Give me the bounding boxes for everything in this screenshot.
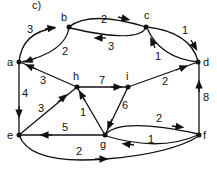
arrow-icon: [126, 144, 134, 145]
node-label-f: f: [203, 129, 207, 141]
edge-weight: 6: [122, 99, 128, 111]
node-d: [196, 60, 201, 65]
arrow-icon: [176, 67, 184, 70]
node-label-h: h: [73, 70, 79, 82]
edge-weight: 3: [38, 102, 44, 114]
node-f: [197, 133, 202, 138]
arrow-icon: [81, 94, 85, 101]
node-i: [126, 85, 131, 90]
edge-weight: 2: [76, 145, 82, 157]
node-label-c: c: [144, 9, 150, 21]
edge-weight: 2: [156, 112, 162, 124]
node-e: [17, 133, 22, 138]
edge-weight: 2: [101, 13, 107, 25]
edge-weight: 4: [22, 87, 28, 99]
node-h: [75, 85, 80, 90]
edge-weight: 1: [155, 50, 161, 62]
edge-e-f: [19, 135, 199, 160]
edge-weight: 3: [27, 23, 33, 35]
edge-weight: 1: [80, 106, 86, 118]
node-b: [67, 25, 72, 30]
figure-caption: c): [32, 0, 41, 11]
edge-c-b: [70, 27, 146, 36]
edge-weight: 3: [40, 74, 46, 86]
arrow-icon: [118, 17, 126, 19]
node-label-b: b: [61, 11, 67, 23]
node-label-d: d: [203, 56, 209, 68]
node-label-i: i: [126, 70, 128, 82]
node-g: [103, 133, 108, 138]
edge-b-c: [69, 19, 146, 28]
arrow-icon: [152, 41, 155, 48]
edge-weight: 8: [203, 91, 209, 103]
node-c: [144, 25, 149, 30]
node-label-a: a: [7, 56, 14, 68]
edge-weight: 3: [108, 40, 114, 52]
arrow-icon: [58, 97, 64, 102]
edge-a-b: [19, 28, 55, 62]
edge-weight: 1: [182, 24, 188, 36]
arrow-icon: [29, 66, 36, 69]
edge-weight: 7: [99, 74, 105, 86]
arrow-icon: [172, 126, 180, 127]
edge-h-a: [20, 62, 77, 87]
arrow-icon: [191, 40, 195, 47]
edge-weight: 5: [62, 121, 68, 133]
graph-diagram: c) 3 2 2 3 1 1 4 3 7 2 3 1 6 5: [0, 0, 217, 170]
edge-weight: 2: [162, 75, 168, 87]
node-a: [17, 60, 22, 65]
node-label-g: g: [100, 138, 106, 150]
graph-svg: c) 3 2 2 3 1 1 4 3 7 2 3 1 6 5: [0, 0, 217, 170]
node-label-e: e: [7, 129, 13, 141]
edge-weight: 2: [62, 45, 68, 57]
edge-weight: 1: [148, 133, 154, 145]
